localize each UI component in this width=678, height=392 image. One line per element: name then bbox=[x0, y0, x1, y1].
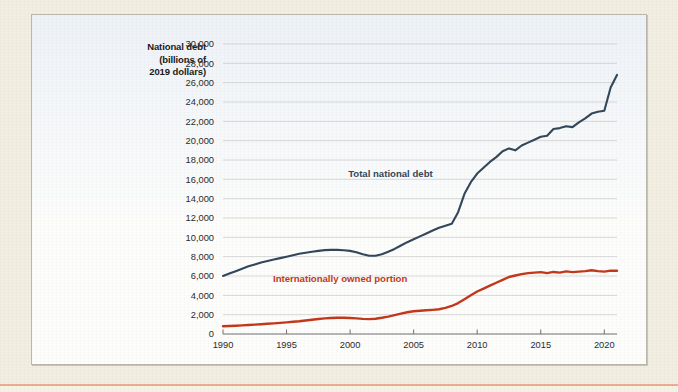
y-tick-label: 28,000 bbox=[186, 59, 214, 69]
x-tick-label: 2010 bbox=[467, 340, 488, 350]
series-label: Internationally owned portion bbox=[273, 273, 407, 284]
plot-area: 02,0004,0006,0008,00010,00012,00014,0001… bbox=[32, 15, 647, 365]
y-tick-label: 20,000 bbox=[186, 136, 214, 146]
y-tick-label: 0 bbox=[209, 329, 214, 339]
y-tick-label: 6,000 bbox=[191, 271, 214, 281]
x-tick-label: 2000 bbox=[340, 340, 361, 350]
x-tick-label: 2015 bbox=[530, 340, 551, 350]
y-tick-label: 12,000 bbox=[186, 213, 214, 223]
series-group bbox=[223, 75, 617, 326]
chart-figure-card: National debt (billions of 2019 dollars)… bbox=[31, 14, 647, 365]
x-tick-labels-group: 1990199520002005201020152020 bbox=[213, 340, 615, 350]
y-tick-label: 24,000 bbox=[186, 97, 214, 107]
y-tick-label: 14,000 bbox=[186, 194, 214, 204]
line-chart: 02,0004,0006,0008,00010,00012,00014,0001… bbox=[32, 15, 647, 365]
x-axis-group bbox=[223, 330, 617, 335]
footer-accent-rule bbox=[0, 384, 678, 386]
y-tick-label: 2,000 bbox=[191, 310, 214, 320]
y-tick-label: 8,000 bbox=[191, 252, 214, 262]
series-label: Total national debt bbox=[348, 168, 433, 179]
y-tick-label: 26,000 bbox=[186, 78, 214, 88]
x-tick-label: 2020 bbox=[594, 340, 615, 350]
x-tick-label: 1990 bbox=[213, 340, 234, 350]
y-tick-label: 16,000 bbox=[186, 175, 214, 185]
x-tick-label: 2005 bbox=[403, 340, 424, 350]
y-tick-label: 4,000 bbox=[191, 291, 214, 301]
footer-band bbox=[0, 386, 678, 392]
y-tick-labels-group: 02,0004,0006,0008,00010,00012,00014,0001… bbox=[186, 39, 214, 339]
y-tick-label: 30,000 bbox=[186, 39, 214, 49]
y-tick-label: 22,000 bbox=[186, 117, 214, 127]
y-tick-label: 18,000 bbox=[186, 155, 214, 165]
series-annotations-group: Total national debtInternationally owned… bbox=[273, 168, 434, 283]
x-tick-label: 1995 bbox=[276, 340, 297, 350]
page-background: National debt (billions of 2019 dollars)… bbox=[0, 0, 678, 392]
y-tick-label: 10,000 bbox=[186, 233, 214, 243]
